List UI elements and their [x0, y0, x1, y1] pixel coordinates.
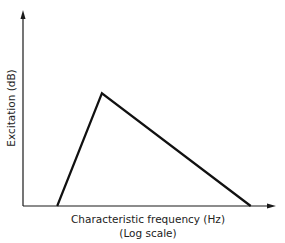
x-axis-label: Characteristic frequency (Hz): [71, 213, 225, 225]
series-layer: [57, 93, 251, 206]
y-axis-label: Excitation (dB): [5, 69, 17, 146]
x-axis-scale-note: (Log scale): [119, 227, 176, 239]
excitation-pattern-diagram: Excitation (dB) Characteristic frequency…: [0, 0, 285, 243]
y-axis-arrowhead: [21, 10, 26, 19]
series-line-excitation-pattern: [57, 93, 251, 206]
axes: [21, 10, 277, 209]
x-axis-arrowhead: [267, 204, 276, 209]
